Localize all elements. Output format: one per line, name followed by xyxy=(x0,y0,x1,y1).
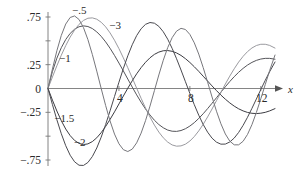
curve-annotation: −3 xyxy=(109,19,121,31)
y-tick-label: .25 xyxy=(27,59,42,71)
x-tick-label: 12 xyxy=(256,92,268,104)
curve-3 xyxy=(48,16,275,152)
x-axis-title: x xyxy=(287,83,293,95)
x-tick-label-group: 4812 xyxy=(117,92,268,104)
x-tick-label: 8 xyxy=(188,92,194,104)
y-tick-label: 0 xyxy=(35,83,41,95)
curve-annotation: −.5 xyxy=(72,4,87,16)
y-tick-label: .75 xyxy=(27,11,42,23)
x-axis-arrow-icon xyxy=(275,85,283,91)
curve-annotation: −1 xyxy=(59,52,71,64)
y-tick-label: −.25 xyxy=(20,106,41,118)
plot-figure: 4812 .75.250−.25−.75 −.5−3−1−1.5−2 x xyxy=(0,0,298,181)
y-tick-label: −.75 xyxy=(20,154,41,166)
x-tick-label: 4 xyxy=(117,92,123,104)
curve-annotation: −2 xyxy=(74,136,86,148)
curve-annotation: −1.5 xyxy=(54,112,74,124)
y-tick-label-group: .75.250−.25−.75 xyxy=(20,11,41,166)
curve-5 xyxy=(48,26,275,132)
plot-svg: 4812 .75.250−.25−.75 −.5−3−1−1.5−2 x xyxy=(0,0,298,181)
